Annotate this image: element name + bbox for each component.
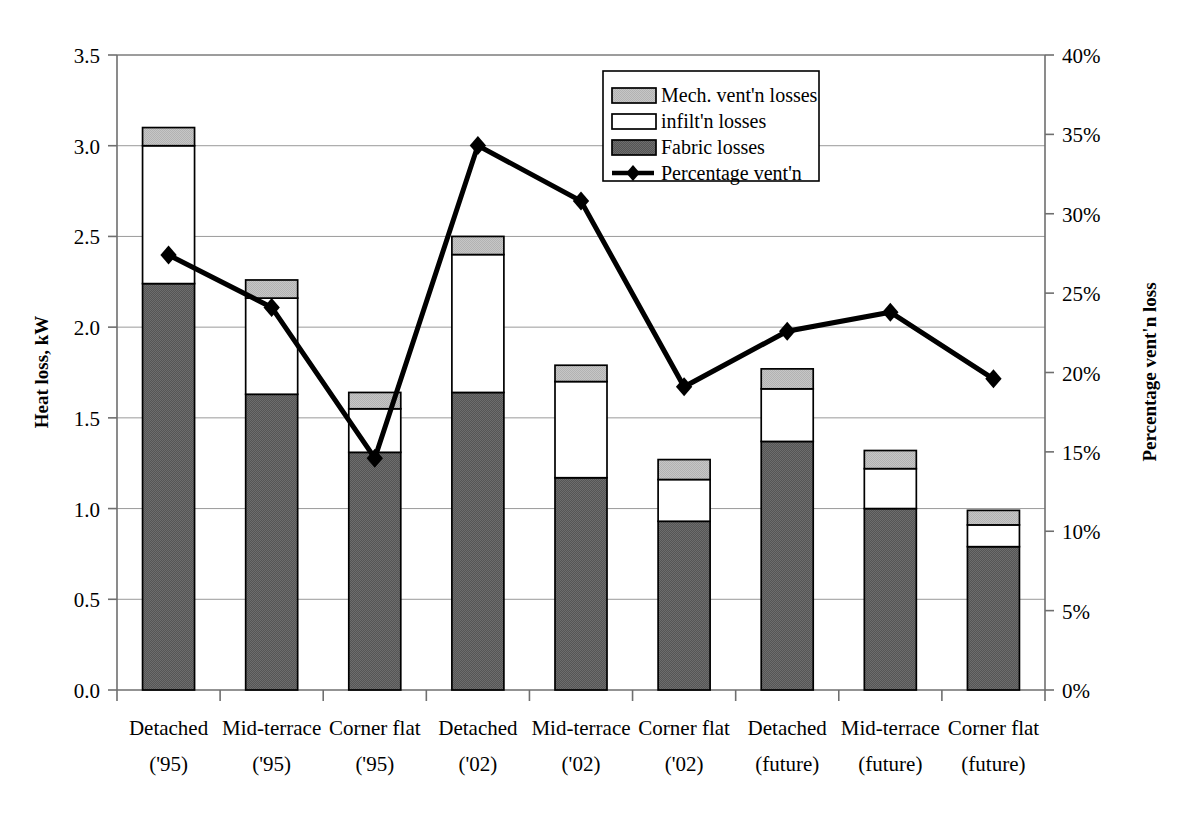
bar-segment-mech-vent-losses [967,510,1019,525]
category-axis-label: Detached [748,716,828,740]
bar-segment-fabric-losses [246,394,298,690]
bar-segment-mech-vent-losses [143,128,195,146]
category-axis-label: ('95) [252,752,291,776]
category-axis-label: ('02) [458,752,497,776]
right-axis-tick-label: 20% [1062,362,1101,386]
category-axis-label: Corner flat [638,716,730,740]
left-axis-tick-labels: 0.00.51.01.52.02.53.03.5 [74,44,100,703]
legend-color-swatch [612,88,656,103]
bar-segment-fabric-losses [143,284,195,690]
category-axis-label: Corner flat [948,716,1040,740]
category-axis-label: Detached [129,716,209,740]
left-axis-tick-label: 1.0 [74,498,100,522]
bar-segment-mech-vent-losses [864,451,916,469]
bar-segment-infiltration-losses [658,480,710,522]
left-axis-tick-label: 0.0 [74,679,100,703]
bar-segment-infiltration-losses [555,382,607,478]
left-axis-tick-label: 3.5 [74,44,100,68]
bar-segment-fabric-losses [555,478,607,690]
left-axis-tick-label: 2.5 [74,225,100,249]
category-axis-label: ('02) [562,752,601,776]
category-axis-label: Corner flat [329,716,421,740]
stacked-bar [143,128,195,690]
left-axis-tick-label: 2.0 [74,316,100,340]
bar-segment-fabric-losses [349,452,401,690]
bar-segment-fabric-losses [761,441,813,690]
category-axis-label: ('02) [665,752,704,776]
category-axis-label: (future) [755,752,819,776]
right-axis-ticks [1045,55,1054,690]
legend-entry-label: Percentage vent'n [661,162,802,185]
left-axis-tick-label: 0.5 [74,588,100,612]
stacked-bar [967,510,1019,690]
right-axis-tick-labels: 0%5%10%15%20%25%30%35%40% [1062,44,1101,703]
right-axis-tick-label: 0% [1062,679,1090,703]
bar-segment-fabric-losses [967,547,1019,690]
stacked-bar [864,451,916,690]
legend-entry[interactable]: infilt'n losses [612,110,766,132]
bar-segment-mech-vent-losses [658,460,710,480]
category-axis-label: Mid-terrace [222,716,321,740]
category-axis-label: ('95) [355,752,394,776]
category-axis-labels: Detached('95)Mid-terrace('95)Corner flat… [129,716,1039,776]
left-axis-tick-label: 3.0 [74,135,100,159]
bar-segment-fabric-losses [452,392,504,690]
category-axis-label: (future) [961,752,1025,776]
left-axis-tick-label: 1.5 [74,407,100,431]
legend-entry-label: Fabric losses [661,136,765,158]
category-axis-label: Mid-terrace [531,716,630,740]
heat-loss-chart: 0.00.51.01.52.02.53.03.5 0%5%10%15%20%25… [0,0,1186,827]
left-axis-ticks [108,55,117,690]
chart-container: 0.00.51.01.52.02.53.03.5 0%5%10%15%20%25… [0,0,1186,827]
left-axis-title: Heat loss, kW [31,316,52,428]
right-axis-tick-label: 35% [1062,123,1101,147]
bar-segment-mech-vent-losses [761,369,813,389]
category-axis-label: Mid-terrace [841,716,940,740]
category-axis-label: (future) [858,752,922,776]
stacked-bar [452,236,504,690]
stacked-bar [761,369,813,690]
stacked-bar [658,460,710,690]
bar-segment-mech-vent-losses [555,365,607,381]
category-axis-label: ('95) [149,752,188,776]
legend-color-swatch [612,140,656,155]
legend-entry-label: infilt'n losses [661,110,766,132]
stacked-bar [349,392,401,690]
bar-segment-fabric-losses [864,509,916,690]
right-axis-tick-label: 40% [1062,44,1101,68]
right-axis-title: Percentage vent'n loss [1139,282,1160,461]
bar-segment-mech-vent-losses [452,236,504,254]
bar-segment-infiltration-losses [452,255,504,393]
bar-segment-infiltration-losses [761,389,813,442]
legend-entry[interactable]: Fabric losses [612,136,765,158]
category-axis-label: Detached [438,716,518,740]
right-axis-tick-label: 25% [1062,282,1101,306]
bar-segment-fabric-losses [658,521,710,690]
bar-segment-infiltration-losses [967,525,1019,547]
stacked-bar [555,365,607,690]
legend-entry-label: Mech. vent'n losses [661,84,818,106]
chart-legend: Mech. vent'n lossesinfilt'n lossesFabric… [603,71,819,185]
right-axis-tick-label: 10% [1062,520,1101,544]
bar-segment-infiltration-losses [864,469,916,509]
legend-entry[interactable]: Mech. vent'n losses [612,84,818,106]
legend-color-swatch [612,114,656,129]
right-axis-tick-label: 30% [1062,203,1101,227]
stacked-bar [246,280,298,690]
right-axis-tick-label: 15% [1062,441,1101,465]
category-axis-ticks [117,690,1045,701]
right-axis-tick-label: 5% [1062,600,1090,624]
